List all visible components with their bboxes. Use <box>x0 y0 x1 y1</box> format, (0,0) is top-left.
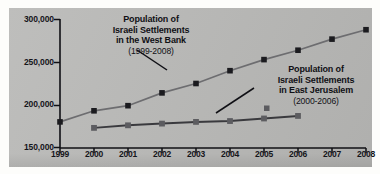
chart-figure: 300,000250,000200,000150,000 19992000200… <box>0 0 380 174</box>
east-jerusalem-markers <box>91 113 301 131</box>
data-point-marker <box>125 122 131 128</box>
y-axis-tick-label: 250,000 <box>0 58 54 67</box>
data-point-marker <box>159 90 165 96</box>
data-point-marker <box>91 125 97 131</box>
annotation-east-jerusalem-line-1: Population of <box>255 64 377 75</box>
data-point-marker <box>57 119 63 125</box>
y-axis-tick-label: 300,000 <box>0 15 54 24</box>
annotation-east-jerusalem-line-2: Israeli Settlements <box>255 75 377 86</box>
annotation-west-bank: Population of Israeli Settlements in the… <box>88 14 214 56</box>
data-point-marker <box>227 118 233 124</box>
annotation-east-jerusalem-line-3: in East Jerusalem <box>255 85 377 96</box>
data-point-marker <box>295 47 301 53</box>
annotation-west-bank-years: (1999-2008) <box>88 46 214 57</box>
y-axis-ticks <box>54 20 60 148</box>
x-axis-tick-label: 2008 <box>346 150 380 159</box>
data-point-marker <box>193 81 199 87</box>
annotation-east-jerusalem-years: (2000-2006) <box>255 96 377 107</box>
data-point-marker <box>227 68 233 74</box>
data-point-marker <box>91 108 97 114</box>
data-point-marker <box>193 119 199 125</box>
y-axis-tick-label: 200,000 <box>0 100 54 109</box>
data-point-marker <box>295 113 301 119</box>
annotation-west-bank-line-1: Population of <box>88 14 214 25</box>
annotation-west-bank-line-2: Israeli Settlements <box>88 25 214 36</box>
data-point-marker <box>363 27 369 33</box>
east-jerusalem-leader-line <box>216 88 254 113</box>
annotation-east-jerusalem: Population of Israeli Settlements in Eas… <box>255 64 377 106</box>
data-point-marker <box>261 57 267 63</box>
annotation-west-bank-line-3: in the West Bank <box>88 35 214 46</box>
data-point-marker <box>125 103 131 109</box>
data-point-marker <box>329 36 335 42</box>
data-point-marker <box>261 116 267 122</box>
data-point-marker <box>159 121 165 127</box>
